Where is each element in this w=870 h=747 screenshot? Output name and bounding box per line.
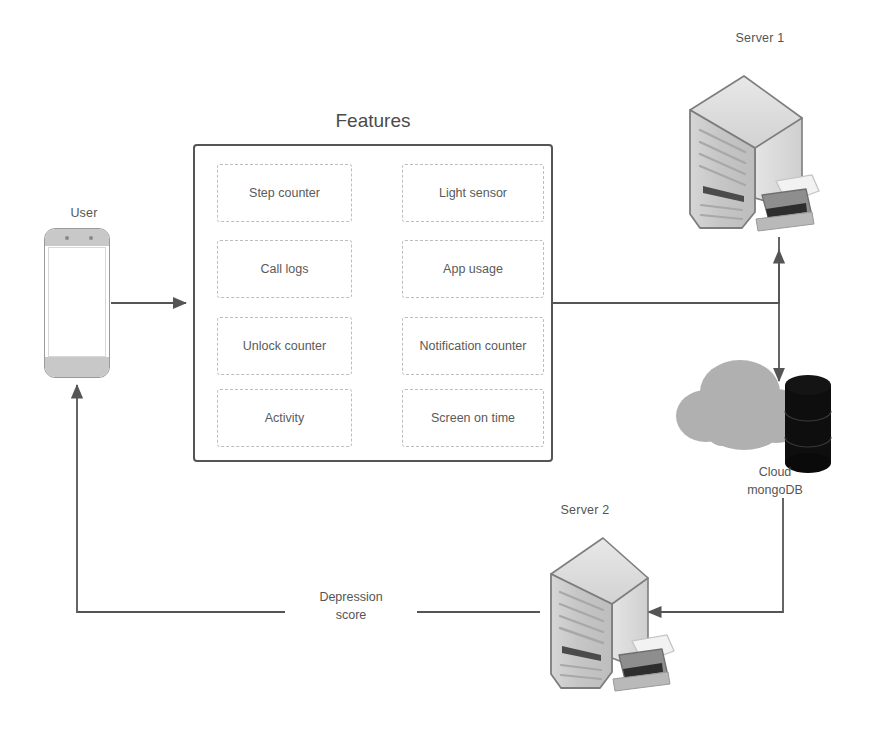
phone-screen — [48, 247, 106, 357]
feature-unlock-counter[interactable]: Unlock counter — [217, 317, 352, 375]
depression-label-line2: score — [285, 607, 417, 625]
phone-camera-dot — [65, 236, 69, 240]
server1-label: Server 1 — [700, 31, 820, 45]
cloud-label-line2: mongoDB — [705, 481, 845, 499]
server2-label: Server 2 — [525, 503, 645, 517]
cloud-database-icon — [676, 360, 831, 473]
smartphone-icon — [44, 228, 110, 378]
server-tower-icon-2 — [551, 538, 674, 691]
user-label: User — [37, 206, 131, 220]
diagram-canvas: Step counter Light sensor Call logs App … — [0, 0, 870, 747]
edge-label-depression-score: Depression score — [285, 589, 417, 624]
feature-activity[interactable]: Activity — [217, 389, 352, 447]
cloud-label: Cloud mongoDB — [705, 463, 845, 499]
depression-label-line1: Depression — [285, 589, 417, 607]
feature-call-logs[interactable]: Call logs — [217, 240, 352, 298]
phone-bottom-bezel — [45, 357, 109, 377]
phone-sensor-dot — [89, 236, 93, 240]
server-tower-icon-1 — [690, 76, 819, 231]
cloud-label-line1: Cloud — [705, 463, 845, 481]
database-cylinder — [785, 375, 831, 473]
features-container: Step counter Light sensor Call logs App … — [193, 144, 553, 462]
features-title: Features — [273, 110, 473, 132]
edge-features-to-server1 — [553, 250, 779, 303]
feature-light-sensor[interactable]: Light sensor — [402, 164, 544, 222]
feature-notification-counter[interactable]: Notification counter — [402, 317, 544, 375]
feature-screen-on-time[interactable]: Screen on time — [402, 389, 544, 447]
phone-top-bezel — [45, 229, 109, 246]
feature-step-counter[interactable]: Step counter — [217, 164, 352, 222]
feature-app-usage[interactable]: App usage — [402, 240, 544, 298]
edge-cloud-to-server2 — [648, 498, 783, 612]
